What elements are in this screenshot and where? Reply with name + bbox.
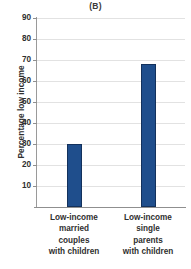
y-axis-tick-label: 60 [1,76,31,85]
category-label-line: married [37,223,111,234]
y-axis-tick-label: 50 [1,97,31,106]
gridline [37,165,185,166]
category-label-line: Low-income [37,212,111,223]
y-axis-tick-mark [33,18,37,19]
gridline [37,102,185,103]
y-axis-tick-mark [33,123,37,124]
category-label-line: parents [111,235,185,246]
plot-area [37,18,185,207]
y-axis-title: Percentage low income [16,22,26,202]
gridline [37,144,185,145]
y-axis-tick-mark [33,186,37,187]
y-axis-tick-label: 80 [1,34,31,43]
gridline [37,123,185,124]
y-axis-tick-label: 30 [1,139,31,148]
y-axis-tick-mark [33,144,37,145]
gridline [37,39,185,40]
category-label-line: with children [111,246,185,257]
y-axis-tick-mark [33,60,37,61]
x-axis-category-label: Low-incomemarriedcoupleswith children [37,212,111,257]
bar [141,64,156,207]
gridline [37,18,185,19]
x-axis-category-label: Low-incomesingleparentswith children [111,212,185,257]
y-axis-tick-label: 70 [1,55,31,64]
y-axis-tick-mark [33,165,37,166]
gridline [37,60,185,61]
gridline [37,81,185,82]
y-axis-tick-mark [33,81,37,82]
bar [67,144,82,207]
y-axis-tick-label: 40 [1,118,31,127]
category-label-line: Low-income [111,212,185,223]
y-axis-tick-label: 10 [1,181,31,190]
y-axis-tick-label: 90 [1,13,31,22]
y-axis-tick-mark [33,39,37,40]
gridline [37,186,185,187]
category-label-line: couples [37,235,111,246]
y-axis-tick-mark [33,102,37,103]
chart-title: (B) [0,1,191,11]
bar-chart-figure: (B) Percentage low income 90807060504030… [0,0,191,269]
category-label-line: with children [37,246,111,257]
y-axis-tick-label: 20 [1,160,31,169]
x-axis-line [34,207,186,208]
category-label-line: single [111,223,185,234]
